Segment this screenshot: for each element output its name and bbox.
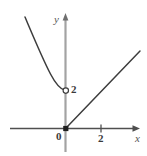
y-axis-label: y (54, 14, 59, 25)
closed-point-marker (63, 126, 68, 131)
graph-figure: y x 2 0 2 (0, 0, 147, 156)
x-axis-arrowhead-icon (133, 125, 141, 131)
y-axis (63, 13, 69, 152)
origin-label: 0 (56, 131, 62, 142)
graph-canvas (0, 0, 147, 156)
x-tick-label-2: 2 (98, 133, 104, 144)
x-axis-label: x (135, 133, 140, 144)
y-axis-arrowhead-icon (63, 13, 69, 21)
x-axis (10, 125, 140, 133)
open-point-marker (63, 88, 68, 93)
curve-path (25, 17, 65, 90)
y-intercept-value-label: 2 (71, 84, 77, 95)
curve-branch-decreasing (25, 17, 65, 90)
